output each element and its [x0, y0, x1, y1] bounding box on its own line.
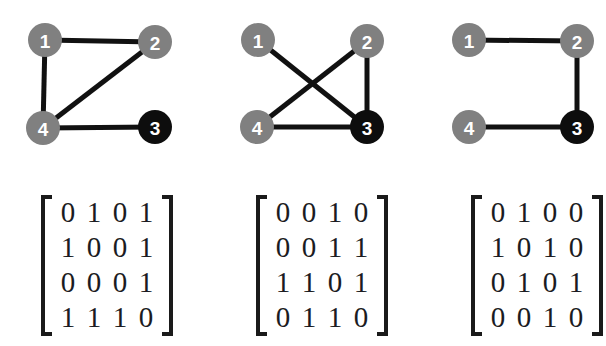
matrix-cell-r4-c3: 1 [328, 303, 343, 332]
matrix-cell-r3-c4: 1 [139, 268, 154, 297]
matrix-cell-r3-c3: 0 [328, 268, 343, 297]
matrix-cell-r3-c4: 1 [569, 268, 584, 297]
matrix-bracket-right [592, 195, 603, 335]
graph-canvas: 1234 [0, 0, 202, 175]
node-label: 4 [252, 118, 263, 139]
matrix-cell-r3-c2: 1 [517, 268, 532, 297]
matrix-cell-r3-c4: 1 [354, 268, 369, 297]
node-label: 1 [253, 31, 264, 52]
matrix-bracket-left [471, 195, 482, 335]
matrix-cell-r4-c4: 0 [354, 303, 369, 332]
matrix-cell-r3-c1: 1 [276, 268, 291, 297]
matrix-cell-r4-c3: 1 [543, 303, 558, 332]
graph-node-1[interactable]: 1 [241, 23, 275, 57]
graph-node-1[interactable]: 1 [28, 23, 62, 57]
matrix-cell-r4-c1: 0 [491, 303, 506, 332]
matrix-grid: 0101100100011110 [52, 195, 162, 335]
matrix-cell-r3-c1: 0 [491, 268, 506, 297]
matrix-cell-r4-c4: 0 [569, 303, 584, 332]
graph-node-1[interactable]: 1 [452, 23, 486, 57]
graph-edge-2-4 [43, 42, 155, 128]
matrix-cell-r4-c1: 1 [61, 303, 76, 332]
matrix-panel-1: 0101100100011110 [0, 175, 202, 346]
matrix-cell-r1-c3: 0 [543, 198, 558, 227]
matrix-cell-r2-c1: 1 [491, 233, 506, 262]
matrix-cell-r4-c3: 1 [113, 303, 128, 332]
graph-panel-1: 1234 [0, 0, 202, 175]
matrix-cell-r3-c2: 0 [87, 268, 102, 297]
graph-node-2[interactable]: 2 [138, 25, 172, 59]
adjacency-matrix-figure: 1234 1234 1234 0101100100011110 00100011… [0, 0, 606, 346]
graph-canvas: 1234 [200, 0, 402, 175]
node-label: 1 [40, 31, 51, 52]
matrix-cell-r3-c2: 1 [302, 268, 317, 297]
matrix-cell-r1-c4: 0 [569, 198, 584, 227]
matrix-cell-r2-c2: 0 [517, 233, 532, 262]
matrix-cell-r2-c1: 1 [61, 233, 76, 262]
matrix-cell-r2-c4: 0 [569, 233, 584, 262]
matrix-cell-r2-c1: 0 [276, 233, 291, 262]
edge-layer [469, 40, 577, 127]
matrix-cell-r2-c2: 0 [302, 233, 317, 262]
matrix-bracket-left [41, 195, 52, 335]
matrix-grid: 0010001111010110 [267, 195, 377, 335]
node-label: 3 [362, 118, 373, 139]
matrix-cell-r4-c2: 1 [302, 303, 317, 332]
graph-node-2[interactable]: 2 [560, 24, 594, 58]
matrix-cell-r1-c4: 0 [354, 198, 369, 227]
node-label: 3 [150, 118, 161, 139]
edge-layer [257, 40, 367, 127]
matrix-cell-r3-c1: 0 [61, 268, 76, 297]
graph-node-3[interactable]: 3 [350, 110, 384, 144]
graph-row: 1234 1234 1234 [0, 0, 606, 175]
graph-panel-3: 1234 [404, 0, 606, 175]
edge-layer [43, 40, 155, 128]
matrix-cell-r1-c2: 1 [517, 198, 532, 227]
matrix-cell-r3-c3: 0 [113, 268, 128, 297]
matrix-cell-r4-c2: 0 [517, 303, 532, 332]
graph-node-4[interactable]: 4 [452, 110, 486, 144]
matrix-cell-r1-c4: 1 [139, 198, 154, 227]
matrix-cell-r2-c3: 1 [328, 233, 343, 262]
matrix-panel-2: 0010001111010110 [200, 175, 404, 346]
matrix-cell-r2-c2: 0 [87, 233, 102, 262]
matrix-cell-r1-c2: 1 [87, 198, 102, 227]
matrix-cell-r1-c1: 0 [491, 198, 506, 227]
matrix-cell-r1-c2: 0 [302, 198, 317, 227]
matrix-cell-r4-c1: 0 [276, 303, 291, 332]
node-label: 2 [150, 33, 161, 54]
matrix-cell-r1-c1: 0 [61, 198, 76, 227]
matrix-row: 0101100100011110 0010001111010110 010010… [0, 175, 606, 346]
graph-panel-2: 1234 [200, 0, 402, 175]
node-label: 1 [464, 31, 475, 52]
matrix-cell-r4-c2: 1 [87, 303, 102, 332]
node-label: 2 [362, 32, 373, 53]
matrix-bracket-right [162, 195, 173, 335]
node-label: 4 [464, 118, 475, 139]
graph-node-4[interactable]: 4 [240, 110, 274, 144]
matrix-cell-r1-c1: 0 [276, 198, 291, 227]
graph-canvas: 1234 [404, 0, 606, 175]
matrix-panel-3: 0100101001010010 [404, 175, 606, 346]
matrix-grid: 0100101001010010 [482, 195, 592, 335]
graph-node-3[interactable]: 3 [560, 110, 594, 144]
matrix-cell-r2-c3: 1 [543, 233, 558, 262]
matrix-cell-r3-c3: 0 [543, 268, 558, 297]
graph-node-4[interactable]: 4 [26, 111, 60, 145]
matrix-cell-r1-c3: 0 [113, 198, 128, 227]
matrix-bracket-left [256, 195, 267, 335]
matrix-bracket-right [377, 195, 388, 335]
node-label: 4 [38, 119, 49, 140]
matrix-cell-r1-c3: 1 [328, 198, 343, 227]
graph-node-3[interactable]: 3 [138, 110, 172, 144]
graph-node-2[interactable]: 2 [350, 24, 384, 58]
matrix-cell-r2-c3: 0 [113, 233, 128, 262]
node-label: 3 [572, 118, 583, 139]
matrix-cell-r4-c4: 0 [139, 303, 154, 332]
node-label: 2 [572, 32, 583, 53]
matrix-cell-r2-c4: 1 [354, 233, 369, 262]
matrix-cell-r2-c4: 1 [139, 233, 154, 262]
